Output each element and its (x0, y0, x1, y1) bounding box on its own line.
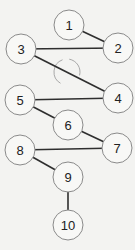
node-label: 8 (16, 143, 23, 158)
node-8: 8 (5, 135, 35, 165)
node-label: 6 (64, 118, 71, 133)
node-3: 3 (6, 34, 36, 64)
node-label: 3 (17, 42, 24, 57)
node-9: 9 (53, 162, 83, 192)
graph-diagram: 12345678910 (0, 0, 135, 250)
node-label: 1 (65, 18, 72, 33)
node-10: 10 (53, 210, 83, 240)
node-2: 2 (103, 33, 133, 63)
node-4: 4 (103, 83, 133, 113)
node-7: 7 (102, 133, 132, 163)
node-6: 6 (53, 110, 83, 140)
node-label: 7 (113, 141, 120, 156)
node-label: 2 (114, 41, 121, 56)
node-5: 5 (5, 85, 35, 115)
node-label: 9 (64, 170, 71, 185)
node-1: 1 (54, 10, 84, 40)
node-label: 5 (16, 93, 23, 108)
node-label: 10 (61, 218, 75, 233)
node-label: 4 (114, 91, 121, 106)
